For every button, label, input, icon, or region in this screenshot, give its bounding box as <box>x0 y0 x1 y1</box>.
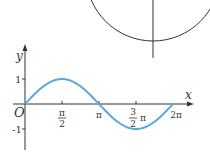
circle-fragment <box>86 0 210 58</box>
x-tick-label-pi-over-2-num: π <box>59 108 65 118</box>
x-tick-label-3pi-over-2-num: 3 <box>130 107 136 117</box>
y-tick-label-neg1: -1 <box>12 124 22 135</box>
x-axis-arrow-icon <box>187 102 194 107</box>
x-tick-label-3pi-over-2-suffix: π <box>140 113 146 123</box>
x-tick-label-2pi: 2π <box>170 110 182 120</box>
origin-label: O <box>14 105 25 120</box>
y-axis-label: y <box>15 49 23 63</box>
x-tick-label-3pi-over-2-den: 2 <box>130 119 136 129</box>
x-axis-label: x <box>185 88 192 102</box>
y-axis-arrow-icon <box>23 44 28 51</box>
axes <box>13 44 194 150</box>
y-tick-label-1: 1 <box>15 74 21 85</box>
figure: y x O 1 -1 π 2 π 3 2 π 2π <box>0 0 210 161</box>
x-tick-label-pi-over-2-den: 2 <box>59 119 65 129</box>
x-tick-label-pi: π <box>96 110 102 120</box>
